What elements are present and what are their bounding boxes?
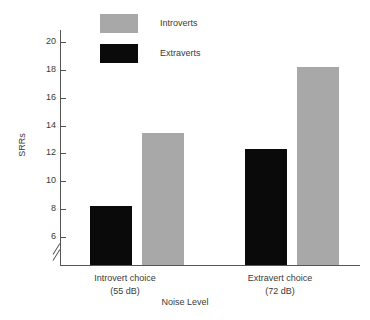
x-category-label-1-line1: Extravert choice — [215, 272, 345, 285]
y-tick-label-10: 10 — [34, 176, 56, 185]
y-tick-10 — [60, 181, 66, 182]
y-tick-label-20: 20 — [34, 37, 56, 46]
y-tick-label-16: 16 — [34, 93, 56, 102]
y-tick-18 — [60, 70, 66, 71]
bar-introverts-group-0 — [142, 133, 184, 265]
y-tick-20 — [60, 42, 66, 43]
bar-chart: SRRs 68101214161820 Introverts Extravert… — [0, 0, 370, 320]
axis-break-icon — [52, 241, 70, 261]
legend-label-introverts: Introverts — [160, 18, 198, 28]
y-tick-6 — [60, 237, 66, 238]
legend-label-extraverts: Extraverts — [160, 48, 201, 58]
x-category-label-0: Introvert choice (55 dB) — [60, 272, 190, 298]
y-axis-title: SRRs — [17, 115, 27, 175]
y-tick-label-6: 6 — [34, 232, 56, 241]
y-tick-label-14: 14 — [34, 121, 56, 130]
y-tick-14 — [60, 126, 66, 127]
x-category-label-0-line1: Introvert choice — [60, 272, 190, 285]
y-tick-label-18: 18 — [34, 65, 56, 74]
x-axis-line — [60, 265, 360, 266]
y-tick-16 — [60, 98, 66, 99]
x-axis-title: Noise Level — [120, 297, 250, 307]
legend-swatch-introverts — [100, 14, 138, 33]
bar-introverts-group-1 — [297, 67, 339, 265]
bar-extraverts-group-0 — [90, 206, 132, 265]
y-tick-12 — [60, 153, 66, 154]
y-tick-8 — [60, 209, 66, 210]
y-axis-line — [60, 30, 61, 265]
legend-swatch-extraverts — [100, 44, 138, 63]
bar-extraverts-group-1 — [245, 149, 287, 265]
x-category-label-1: Extravert choice (72 dB) — [215, 272, 345, 298]
y-tick-label-12: 12 — [34, 148, 56, 157]
y-tick-label-8: 8 — [34, 204, 56, 213]
